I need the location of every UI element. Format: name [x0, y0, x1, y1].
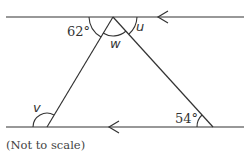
angle-label-62: 62° — [67, 24, 90, 39]
angle-label-w: w — [110, 36, 121, 51]
angle-label-v: v — [33, 100, 41, 115]
angle-label-54: 54° — [175, 111, 198, 126]
not-to-scale-note: (Not to scale) — [6, 138, 85, 152]
angle-label-u: u — [136, 19, 144, 34]
geometry-diagram: 62° w u v 54° (Not to scale) — [0, 0, 252, 159]
angle-arc-62 — [89, 17, 101, 37]
